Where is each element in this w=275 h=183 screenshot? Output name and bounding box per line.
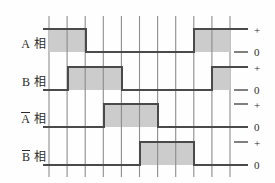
row-symbol-a: A: [20, 37, 31, 52]
level-high-label-a-bar-phase: +: [254, 99, 270, 111]
row-kanji-a-bar: 相: [34, 109, 46, 127]
level-low-label-a-bar-phase: 0: [254, 121, 270, 133]
row-symbol-b: B: [21, 75, 31, 90]
waveform-b-phase: [43, 67, 248, 90]
row-kanji-b-bar: 相: [34, 147, 46, 165]
pulse-fill: [140, 142, 194, 165]
pulse-fill: [68, 67, 122, 90]
level-low-label-a-phase: 0: [254, 46, 270, 58]
wave-path: [49, 142, 230, 165]
row-kanji-b: 相: [34, 72, 46, 90]
timing-diagram: A相 B相 A相 B相 + 0 + 0 + 0 + 0: [0, 0, 275, 183]
waveform-a-bar-phase: [43, 104, 248, 127]
pulse-fill: [212, 67, 230, 90]
row-symbol-a-bar: A: [20, 112, 31, 127]
row-kanji-a: 相: [34, 34, 46, 52]
level-high-label-b-bar-phase: +: [254, 137, 270, 149]
level-low-label-b-bar-phase: 0: [254, 159, 270, 171]
waveform-a-phase: [43, 29, 248, 52]
row-label-a-phase: A相: [2, 34, 46, 52]
row-label-a-bar-phase: A相: [2, 109, 46, 127]
pulse-fill: [104, 104, 158, 127]
row-label-b-bar-phase: B相: [2, 147, 46, 165]
row-symbol-b-bar: B: [21, 150, 31, 165]
row-label-b-phase: B相: [2, 72, 46, 90]
level-low-label-b-phase: 0: [254, 84, 270, 96]
level-high-label-b-phase: +: [254, 62, 270, 74]
level-high-label-a-phase: +: [254, 24, 270, 36]
waveform-b-bar-phase: [43, 142, 248, 165]
